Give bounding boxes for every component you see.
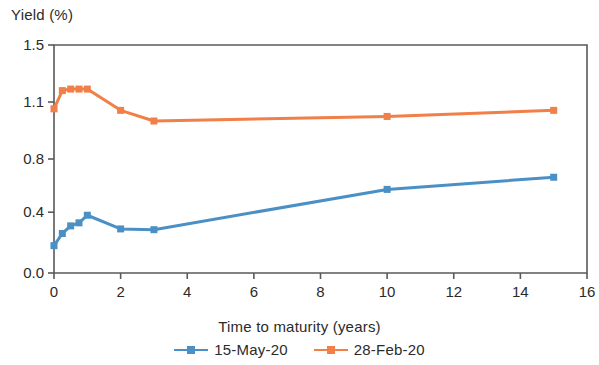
chart-legend: 15-May-20 28-Feb-20 — [0, 341, 599, 358]
data-point-marker — [84, 212, 91, 219]
data-point-marker — [550, 174, 557, 181]
y-tick-label: 0.0 — [4, 264, 44, 281]
yield-curve-chart: Yield (%) Time to maturity (years) 0.00.… — [0, 0, 599, 365]
data-point-marker — [67, 86, 74, 93]
data-point-marker — [117, 225, 124, 232]
data-point-marker — [150, 226, 157, 233]
plot-frame — [54, 45, 587, 273]
data-point-marker — [384, 186, 391, 193]
data-point-marker — [67, 222, 74, 229]
x-tick-label: 6 — [239, 283, 269, 300]
x-tick-label: 12 — [439, 283, 469, 300]
data-point-marker — [75, 86, 82, 93]
y-tick-label: 0.4 — [4, 203, 44, 220]
data-point-marker — [550, 107, 557, 114]
x-tick-label: 2 — [106, 283, 136, 300]
y-tick-label: 1.5 — [4, 36, 44, 53]
legend-item-28-feb-20[interactable]: 28-Feb-20 — [314, 341, 425, 358]
series-line-15-may-20 — [54, 177, 554, 245]
legend-item-15-may-20[interactable]: 15-May-20 — [174, 341, 288, 358]
data-point-marker — [384, 113, 391, 120]
plot-area — [0, 0, 599, 365]
x-tick-label: 16 — [572, 283, 599, 300]
data-point-marker — [84, 86, 91, 93]
data-point-marker — [150, 118, 157, 125]
legend-swatch-blue — [174, 343, 208, 357]
data-point-marker — [117, 107, 124, 114]
y-tick-label: 0.8 — [4, 150, 44, 167]
data-point-marker — [51, 105, 58, 112]
legend-label-15-may-20: 15-May-20 — [214, 341, 288, 358]
x-tick-label: 8 — [306, 283, 336, 300]
legend-label-28-feb-20: 28-Feb-20 — [354, 341, 425, 358]
x-tick-label: 14 — [505, 283, 535, 300]
data-point-marker — [51, 242, 58, 249]
x-tick-label: 4 — [172, 283, 202, 300]
x-axis-title: Time to maturity (years) — [0, 318, 599, 335]
x-tick-label: 10 — [372, 283, 402, 300]
data-point-marker — [59, 87, 66, 94]
data-point-marker — [75, 219, 82, 226]
y-tick-label: 1.1 — [4, 93, 44, 110]
x-tick-label: 0 — [39, 283, 69, 300]
series-line-28-feb-20 — [54, 89, 554, 121]
legend-swatch-orange — [314, 343, 348, 357]
data-point-marker — [59, 230, 66, 237]
